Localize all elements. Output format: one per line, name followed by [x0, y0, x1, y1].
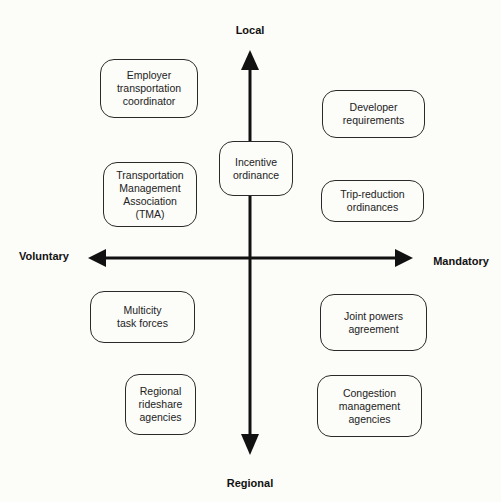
axis-label-regional: Regional: [227, 477, 273, 489]
box-line: Congestion: [339, 387, 400, 400]
box-line: transportation: [117, 82, 181, 95]
box-multicity-task-forces: Multicity task forces: [90, 291, 195, 343]
axes-svg: [0, 0, 501, 502]
box-line: Joint powers: [344, 310, 403, 323]
box-line: Association: [116, 195, 183, 208]
box-joint-powers-agreement: Joint powers agreement: [320, 294, 427, 351]
box-developer-requirements: Developer requirements: [322, 90, 425, 138]
axis-label-voluntary: Voluntary: [19, 250, 69, 262]
axis-label-mandatory: Mandatory: [433, 255, 489, 267]
arrowhead-down-icon: [241, 434, 259, 455]
box-employer-transportation-coordinator: Employer transportation coordinator: [100, 59, 198, 118]
box-line: Multicity: [117, 304, 168, 317]
box-line: Management: [116, 182, 183, 195]
box-line: rideshare: [139, 398, 183, 411]
box-transportation-management-association: Transportation Management Association (T…: [103, 162, 197, 227]
box-line: requirements: [343, 114, 404, 127]
box-line: Regional: [139, 385, 183, 398]
box-congestion-management-agencies: Congestion management agencies: [317, 375, 422, 437]
box-trip-reduction-ordinances: Trip-reduction ordinances: [321, 180, 424, 222]
box-line: agreement: [344, 323, 403, 336]
box-regional-rideshare-agencies: Regional rideshare agencies: [125, 374, 196, 435]
box-line: (TMA): [116, 208, 183, 221]
box-line: management: [339, 400, 400, 413]
box-line: Trip-reduction: [340, 188, 404, 201]
box-line: Developer: [343, 101, 404, 114]
arrowhead-right-icon: [395, 249, 413, 267]
box-line: agencies: [139, 411, 183, 424]
box-line: Incentive: [233, 156, 279, 169]
axis-label-local: Local: [236, 24, 265, 36]
box-incentive-ordinance: Incentive ordinance: [219, 141, 293, 196]
box-line: coordinator: [117, 95, 181, 108]
box-line: task forces: [117, 317, 168, 330]
box-line: Employer: [117, 69, 181, 82]
arrowhead-up-icon: [241, 50, 259, 70]
box-line: ordinances: [340, 201, 404, 214]
box-line: ordinance: [233, 169, 279, 182]
box-line: agencies: [339, 413, 400, 426]
box-line: Transportation: [116, 169, 183, 182]
arrowhead-left-icon: [88, 249, 106, 267]
